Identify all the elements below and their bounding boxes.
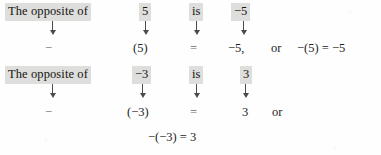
opposite-of-label-2: The opposite of xyxy=(5,66,91,84)
down-arrow-icon xyxy=(239,21,248,36)
inline-equation-1: −(5) = −5 xyxy=(297,41,345,56)
negation-sign-1: − xyxy=(45,41,52,56)
result-token-1: −5 xyxy=(231,3,250,21)
negation-sign-2: − xyxy=(45,105,52,120)
operand-token-2: −3 xyxy=(132,66,151,84)
equation-result-1: −5, xyxy=(228,41,244,56)
down-arrow-icon xyxy=(192,84,201,99)
worksheet-page: The opposite of 5 is −5 − (5) = −5, or −… xyxy=(0,0,381,155)
down-arrow-icon xyxy=(48,84,57,99)
centered-equation-2: −(−3) = 3 xyxy=(148,130,196,145)
is-word-2: is xyxy=(189,66,203,84)
equation-operand-1: (5) xyxy=(133,41,148,56)
down-arrow-icon xyxy=(241,84,250,99)
equals-sign-1: = xyxy=(190,41,197,56)
opposite-of-label-1: The opposite of xyxy=(5,3,91,21)
down-arrow-icon xyxy=(192,21,201,36)
down-arrow-icon xyxy=(48,21,57,36)
equals-sign-2: = xyxy=(190,105,197,120)
down-arrow-icon xyxy=(141,21,150,36)
result-token-2: 3 xyxy=(240,66,252,84)
is-word-1: is xyxy=(189,3,203,21)
conjunction-or-1: or xyxy=(271,41,281,56)
conjunction-or-2: or xyxy=(272,105,282,120)
equation-result-2: 3 xyxy=(242,105,248,120)
down-arrow-icon xyxy=(138,84,147,99)
equation-operand-2: (−3) xyxy=(127,105,149,120)
operand-token-1: 5 xyxy=(139,3,151,21)
